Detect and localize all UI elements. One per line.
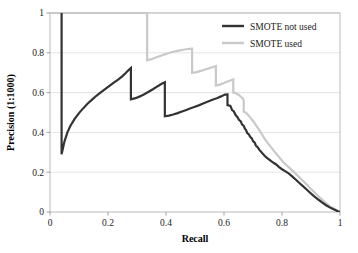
legend-label: SMOTE used bbox=[250, 39, 302, 49]
y-tick-label: 0.2 bbox=[32, 168, 44, 178]
y-tick-label: 0.6 bbox=[32, 88, 44, 98]
x-tick-label: 0.2 bbox=[102, 218, 114, 228]
x-tick-label: 0 bbox=[48, 218, 53, 228]
legend-label: SMOTE not used bbox=[250, 22, 317, 32]
precision-recall-chart: 00.20.40.60.81 00.20.40.60.81 SMOTE not … bbox=[0, 0, 358, 253]
chart-canvas: 00.20.40.60.81 00.20.40.60.81 SMOTE not … bbox=[0, 0, 358, 253]
x-tick-label: 0.6 bbox=[218, 218, 230, 228]
x-tick-label: 0.8 bbox=[276, 218, 288, 228]
gridlines bbox=[50, 13, 340, 172]
y-tick-label: 0 bbox=[39, 207, 44, 217]
x-tick-label: 1 bbox=[338, 218, 343, 228]
y-tick-label: 1 bbox=[39, 8, 44, 18]
legend: SMOTE not usedSMOTE used bbox=[222, 22, 317, 49]
x-axis-ticks: 00.20.40.60.81 bbox=[48, 212, 343, 228]
y-axis-ticks: 00.20.40.60.81 bbox=[32, 8, 50, 217]
y-tick-label: 0.4 bbox=[32, 128, 44, 138]
x-tick-label: 0.4 bbox=[160, 218, 172, 228]
x-axis-title: Recall bbox=[182, 233, 209, 244]
y-axis-title: Precision (1:1000) bbox=[5, 74, 17, 151]
y-tick-label: 0.8 bbox=[32, 48, 44, 58]
